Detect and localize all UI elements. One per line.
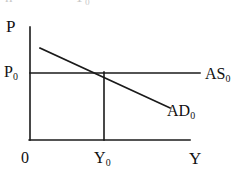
aggregate-demand-label-text: AD — [167, 102, 190, 119]
equilibrium-price-label-subscript: 0 — [13, 71, 18, 82]
vertical-axis-label: P — [6, 18, 15, 35]
aggregate-supply-label-text: AS — [205, 65, 225, 82]
aggregate-supply-label-subscript: 0 — [226, 73, 231, 84]
equilibrium-output-label: Y0 — [94, 150, 111, 166]
aggregate-demand-curve-label: AD0 — [167, 103, 195, 119]
origin-label: 0 — [21, 150, 29, 166]
horizontal-axis-label: Y — [189, 150, 201, 167]
equilibrium-output-label-text: Y — [94, 149, 106, 166]
equilibrium-price-label-text: P — [4, 63, 13, 80]
equilibrium-output-label-subscript: 0 — [106, 157, 111, 168]
ad-as-diagram-figure: n Y₀ P P0 0 Y0 Y AS0 AD0 — [0, 0, 236, 174]
aggregate-supply-curve-label: AS0 — [205, 66, 231, 82]
equilibrium-price-label: P0 — [4, 64, 18, 80]
aggregate-demand-curve — [40, 48, 170, 108]
aggregate-demand-label-subscript: 0 — [190, 110, 195, 121]
diagram-line-layer — [0, 0, 236, 174]
